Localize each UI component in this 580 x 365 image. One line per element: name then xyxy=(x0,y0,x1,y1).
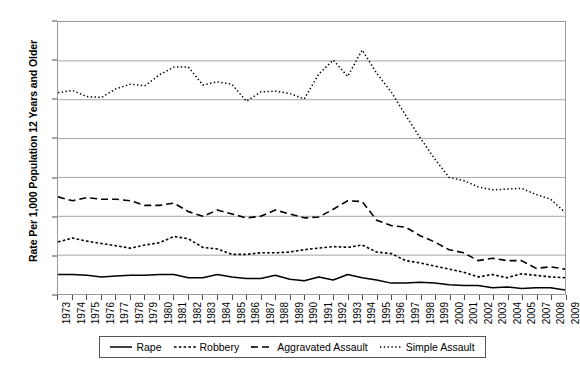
x-tick-label: 1993 xyxy=(352,302,363,324)
x-tick-mark xyxy=(101,295,102,300)
series-line xyxy=(58,197,565,269)
y-tick-mark xyxy=(52,21,57,22)
series-line xyxy=(58,275,565,291)
x-tick-mark xyxy=(173,295,174,300)
x-tick-mark xyxy=(435,295,436,300)
x-tick-mark xyxy=(333,295,334,300)
x-tick-label: 1997 xyxy=(410,302,421,324)
x-tick-label: 1994 xyxy=(366,302,377,324)
x-tick-mark xyxy=(159,295,160,300)
y-axis-title: Rate Per 1,000 Population 12 Years and O… xyxy=(27,11,39,291)
x-tick-label: 1999 xyxy=(439,302,450,324)
legend-label: Robbery xyxy=(200,341,240,353)
x-tick-label: 1985 xyxy=(236,302,247,324)
x-tick-label: 1976 xyxy=(105,302,116,324)
x-tick-mark xyxy=(261,295,262,300)
y-tick-mark xyxy=(52,138,57,139)
x-tick-mark xyxy=(319,295,320,300)
y-tick-mark xyxy=(52,255,57,256)
x-tick-label: 2005 xyxy=(526,302,537,324)
x-tick-mark xyxy=(232,295,233,300)
x-tick-label: 1982 xyxy=(192,302,203,324)
x-tick-mark xyxy=(391,295,392,300)
chart-legend: RapeRobberyAggravated AssaultSimple Assa… xyxy=(99,336,486,358)
x-tick-mark xyxy=(479,295,480,300)
x-tick-label: 2009 xyxy=(570,302,580,324)
x-tick-mark xyxy=(450,295,451,300)
x-tick-label: 1981 xyxy=(177,302,188,324)
x-tick-mark xyxy=(57,295,58,300)
x-tick-label: 1991 xyxy=(323,302,334,324)
x-tick-label: 2000 xyxy=(454,302,465,324)
x-tick-label: 2008 xyxy=(555,302,566,324)
x-tick-mark xyxy=(290,295,291,300)
x-tick-label: 1986 xyxy=(250,302,261,324)
x-tick-mark xyxy=(522,295,523,300)
x-tick-mark xyxy=(144,295,145,300)
x-tick-label: 1984 xyxy=(221,302,232,324)
legend-swatch-icon xyxy=(174,343,196,351)
series-line xyxy=(58,236,565,277)
x-tick-label: 2007 xyxy=(541,302,552,324)
x-tick-mark xyxy=(377,295,378,300)
y-tick-mark xyxy=(52,216,57,217)
x-tick-label: 1988 xyxy=(279,302,290,324)
x-tick-label: 1980 xyxy=(163,302,174,324)
x-tick-label: 1973 xyxy=(61,302,72,324)
legend-label: Rape xyxy=(136,341,161,353)
x-tick-label: 1978 xyxy=(134,302,145,324)
legend-entry: Robbery xyxy=(174,341,240,353)
series-line xyxy=(58,50,565,212)
x-tick-label: 1990 xyxy=(308,302,319,324)
x-tick-mark xyxy=(304,295,305,300)
x-tick-label: 2004 xyxy=(512,302,523,324)
x-tick-mark xyxy=(362,295,363,300)
x-tick-mark xyxy=(217,295,218,300)
x-tick-mark xyxy=(202,295,203,300)
x-tick-label: 1992 xyxy=(337,302,348,324)
x-tick-label: 1995 xyxy=(381,302,392,324)
y-tick-mark xyxy=(52,177,57,178)
legend-swatch-icon xyxy=(110,343,132,351)
legend-swatch-icon xyxy=(251,343,273,351)
x-tick-mark xyxy=(551,295,552,300)
x-tick-label: 1987 xyxy=(265,302,276,324)
x-tick-label: 1979 xyxy=(148,302,159,324)
x-tick-mark xyxy=(188,295,189,300)
x-tick-mark xyxy=(72,295,73,300)
x-tick-mark xyxy=(406,295,407,300)
x-tick-mark xyxy=(464,295,465,300)
y-tick-mark xyxy=(52,60,57,61)
x-tick-mark xyxy=(421,295,422,300)
x-tick-mark xyxy=(493,295,494,300)
x-tick-label: 1983 xyxy=(206,302,217,324)
x-tick-mark xyxy=(246,295,247,300)
x-tick-mark xyxy=(130,295,131,300)
legend-entry: Aggravated Assault xyxy=(251,341,367,353)
x-tick-mark xyxy=(275,295,276,300)
plot-area xyxy=(57,21,566,295)
x-tick-label: 2003 xyxy=(497,302,508,324)
x-tick-label: 1974 xyxy=(76,302,87,324)
y-tick-mark xyxy=(52,99,57,100)
x-tick-mark xyxy=(115,295,116,300)
series-lines xyxy=(58,22,565,294)
x-tick-label: 2002 xyxy=(483,302,494,324)
violent-crime-rate-chart: Rate Per 1,000 Population 12 Years and O… xyxy=(0,0,580,365)
x-tick-mark xyxy=(86,295,87,300)
legend-swatch-icon xyxy=(380,343,402,351)
legend-entry: Simple Assault xyxy=(380,341,475,353)
x-tick-label: 2001 xyxy=(468,302,479,324)
x-tick-label: 1977 xyxy=(119,302,130,324)
legend-label: Simple Assault xyxy=(406,341,475,353)
x-tick-label: 1975 xyxy=(90,302,101,324)
x-tick-label: 1996 xyxy=(395,302,406,324)
x-tick-mark xyxy=(566,295,567,300)
legend-label: Aggravated Assault xyxy=(277,341,367,353)
x-tick-mark xyxy=(508,295,509,300)
legend-entry: Rape xyxy=(110,341,161,353)
x-tick-label: 1998 xyxy=(425,302,436,324)
x-tick-mark xyxy=(348,295,349,300)
x-tick-label: 1989 xyxy=(294,302,305,324)
x-tick-mark xyxy=(537,295,538,300)
